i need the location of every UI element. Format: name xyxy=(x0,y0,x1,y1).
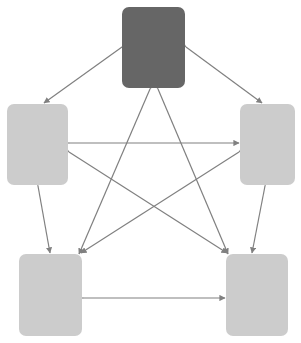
node-right[interactable] xyxy=(240,104,295,185)
edge-top-to-left xyxy=(44,47,122,103)
edge-right-to-bottom-right xyxy=(252,186,265,253)
edge-left-to-bottom-left xyxy=(38,186,50,253)
node-top-label xyxy=(122,7,185,88)
node-top[interactable] xyxy=(122,7,185,88)
node-left-label xyxy=(7,104,68,185)
node-bottom-left[interactable] xyxy=(19,254,82,336)
node-right-label xyxy=(240,104,295,185)
edge-left-to-bottom-right xyxy=(69,152,227,253)
node-bottom-right[interactable] xyxy=(226,254,288,336)
node-bottom-right-label xyxy=(226,254,288,336)
network-diagram xyxy=(0,0,301,343)
edge-top-to-right xyxy=(186,47,262,103)
edge-top-to-bottom-right xyxy=(158,89,228,254)
edge-top-to-bottom-left xyxy=(79,89,150,254)
edge-right-to-bottom-left xyxy=(81,152,239,253)
node-bottom-left-label xyxy=(19,254,82,336)
node-left[interactable] xyxy=(7,104,68,185)
